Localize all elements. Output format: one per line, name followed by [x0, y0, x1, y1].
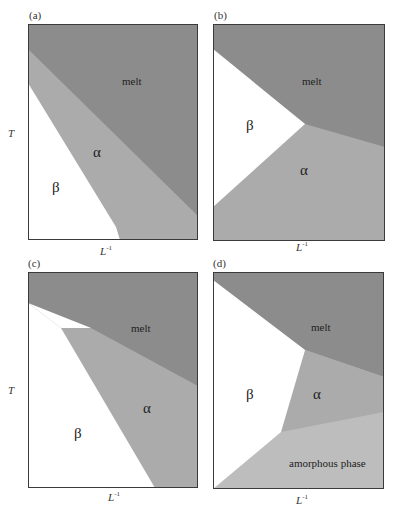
panel-b-beta-label: β: [246, 117, 254, 134]
panel-d-x-axis-label: L-1: [296, 493, 308, 506]
panel-d-amorphous-label: amorphous phase: [289, 457, 366, 469]
panel-a-label: (a): [29, 9, 41, 21]
panel-d-label: (d): [213, 257, 226, 269]
panel-d-beta-label: β: [246, 386, 254, 403]
panel-a-melt-label: melt: [122, 75, 142, 87]
panel-a-beta-label: β: [52, 179, 60, 196]
panel-c-label: (c): [28, 257, 40, 269]
panel-b-diagram: [213, 24, 385, 241]
panel-b-label: (b): [214, 9, 227, 21]
panel-d-alpha-label: α: [313, 386, 321, 403]
panel-a-alpha-label: α: [93, 144, 101, 161]
panel-c-beta-label: β: [74, 425, 82, 442]
panel-c-diagram: [28, 272, 198, 488]
panel-b-melt-label: melt: [302, 75, 322, 87]
panel-c-x-axis-label: L-1: [108, 490, 120, 503]
panel-a-x-axis-label: L-1: [100, 244, 112, 257]
panel-a-y-axis-label: T: [8, 127, 14, 139]
panel-c-melt-label: melt: [131, 322, 151, 334]
panel-c-alpha-label: α: [143, 400, 151, 417]
panel-a-diagram: [28, 24, 198, 240]
panel-d-melt-label: melt: [311, 321, 331, 333]
panel-b-alpha-label: α: [300, 162, 308, 179]
panel-b-x-axis-label: L-1: [296, 240, 308, 253]
panel-c-y-axis-label: T: [8, 384, 14, 396]
